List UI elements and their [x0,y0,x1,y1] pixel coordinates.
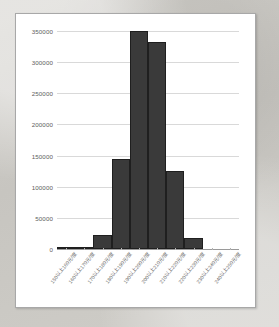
y-axis-tick-label: 0 [49,246,53,253]
bar [148,42,166,249]
x-axis-tick [194,248,195,250]
bar-series [57,31,239,249]
y-axis-tick-label: 200000 [32,121,53,128]
y-axis-tick-label: 250000 [32,90,53,97]
x-axis-tick [103,248,104,250]
y-axis-tick-label: 350000 [32,28,53,35]
y-axis-tick-label: 300000 [32,59,53,66]
plot-area: 0500001000001500002000002500003000003500… [57,31,239,249]
chart-panel: 0500001000001500002000002500003000003500… [15,13,256,308]
bar [93,235,111,249]
bar [130,31,148,249]
x-axis-tick [121,248,122,250]
x-axis-tick [230,248,231,250]
y-axis-tick-label: 50000 [35,214,53,221]
y-axis-tick-label: 100000 [32,183,53,190]
bar [166,171,184,249]
x-axis-tick [175,248,176,250]
x-axis-tick [212,248,213,250]
x-axis-labels: 150以上160元/度160以上170元/度170以上180元/度180以上19… [57,250,239,308]
x-axis-tick [84,248,85,250]
x-axis-tick [157,248,158,250]
plot-wrapper: 0500001000001500002000002500003000003500… [16,14,255,307]
x-axis-tick [139,248,140,250]
x-axis-tick [66,248,67,250]
y-axis-tick-label: 150000 [32,152,53,159]
bar [112,159,130,249]
